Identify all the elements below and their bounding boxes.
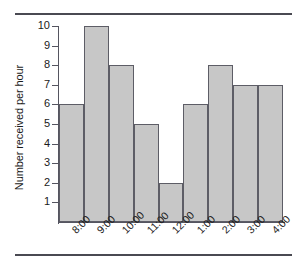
y-tick-label: 3 <box>0 157 50 168</box>
plot-area <box>59 16 283 222</box>
y-tick-label-wrap: 7 <box>0 85 50 86</box>
bar <box>258 85 283 222</box>
bar <box>59 104 84 222</box>
y-tick-label: 9 <box>0 40 50 51</box>
y-tick-mark <box>52 163 59 164</box>
y-tick-mark <box>52 144 59 145</box>
y-tick-mark <box>52 202 59 203</box>
y-tick-label-wrap: 9 <box>0 46 50 47</box>
y-tick-label-wrap: 3 <box>0 163 50 164</box>
y-tick-label-wrap: 10 <box>0 26 50 27</box>
y-tick-label: 2 <box>0 177 50 188</box>
y-tick-label: 1 <box>0 196 50 207</box>
bar <box>134 124 159 222</box>
y-tick-mark <box>52 104 59 105</box>
y-tick-mark <box>52 124 59 125</box>
y-tick-label: 8 <box>0 59 50 70</box>
y-tick-label: 4 <box>0 138 50 149</box>
bottom-divider-rule <box>15 254 292 256</box>
y-tick-mark <box>52 65 59 66</box>
y-tick-label-wrap: 6 <box>0 104 50 105</box>
y-tick-mark <box>52 46 59 47</box>
bar <box>233 85 258 222</box>
y-tick-mark <box>52 26 59 27</box>
bar <box>109 65 134 222</box>
y-tick-mark <box>52 183 59 184</box>
bar <box>183 104 208 222</box>
y-tick-label-wrap: 4 <box>0 144 50 145</box>
y-tick-label: 6 <box>0 98 50 109</box>
y-tick-label: 10 <box>0 20 50 31</box>
y-tick-label-wrap: 2 <box>0 183 50 184</box>
y-tick-label-wrap: 1 <box>0 202 50 203</box>
y-tick-mark <box>52 85 59 86</box>
bar <box>84 26 109 222</box>
y-tick-label-wrap: 8 <box>0 65 50 66</box>
y-tick-label: 7 <box>0 79 50 90</box>
bar <box>208 65 233 222</box>
y-tick-label: 5 <box>0 118 50 129</box>
y-tick-label-wrap: 5 <box>0 124 50 125</box>
bar-chart-figure: Number received per hour 12345678910 8:0… <box>0 13 307 254</box>
